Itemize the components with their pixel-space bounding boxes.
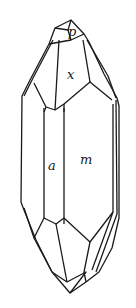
edge xyxy=(34,82,112,110)
edge xyxy=(24,208,113,242)
edge xyxy=(83,40,90,82)
face-label-x: x xyxy=(67,67,75,82)
edge xyxy=(34,238,52,272)
edge xyxy=(116,100,117,214)
edge xyxy=(52,272,86,293)
lower-faces xyxy=(24,208,117,293)
edge xyxy=(56,224,67,282)
face-label-m: m xyxy=(80,152,92,167)
crystal-diagram: p x a m xyxy=(0,0,136,308)
crystal-outline xyxy=(21,20,119,293)
face-label-p: p xyxy=(68,24,77,39)
edge xyxy=(84,242,90,282)
edge xyxy=(55,40,59,110)
face-label-a: a xyxy=(48,158,56,173)
edge xyxy=(24,40,53,96)
outline-edge xyxy=(21,20,119,293)
